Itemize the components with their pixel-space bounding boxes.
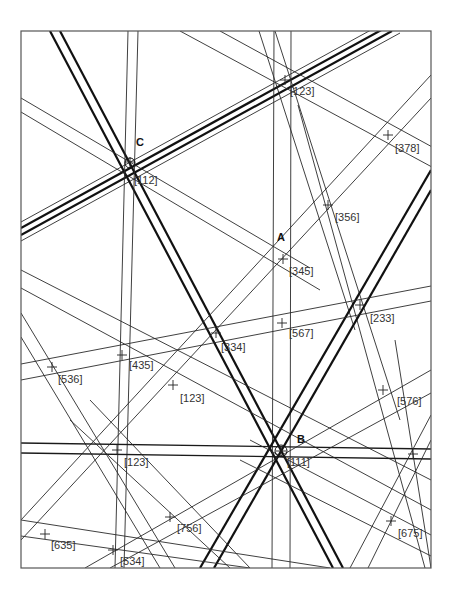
zone-label: [635] [51,539,75,551]
pole-label-a: A [277,231,285,243]
zone-label: [576] [397,395,421,407]
zone-label: [334] [221,341,245,353]
zone-label: [345] [289,265,313,277]
zone-label: [112] [134,174,158,186]
zone-label: [567] [289,327,313,339]
zone-label: [378] [395,142,419,154]
zone-label: [123] [290,85,314,97]
zone-label: [536] [58,373,82,385]
zone-label: [534] [120,555,144,567]
pole-label-b: B [297,433,305,445]
zone-label: [123] [180,392,204,404]
pole-labels: C A B [136,136,305,445]
zone-label: [756] [177,522,201,534]
kikuchi-lines [21,25,456,568]
zone-label: [111] [287,456,310,468]
zone-markers [40,75,418,555]
zone-label: [233] [370,312,394,324]
kikuchi-diagram: C A B [123] [378] [112] [356] [345] [233… [0,0,456,599]
zone-label: [675] [398,527,422,539]
zone-labels: [123] [378] [112] [356] [345] [233] [334… [51,85,422,567]
zone-label: [435] [129,359,153,371]
zone-label: [123] [124,456,148,468]
pole-label-c: C [136,136,144,148]
zone-label: [356] [335,211,359,223]
